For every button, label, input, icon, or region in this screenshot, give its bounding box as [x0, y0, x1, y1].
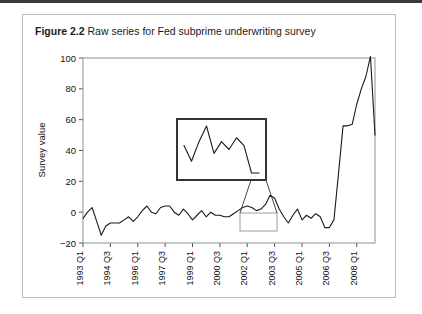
y-tick-label: 100: [60, 53, 76, 64]
x-axis-ticks: 1993 Q11994 Q31996 Q11997 Q31999 Q12000 …: [75, 243, 359, 286]
y-axis-ticks: −20020406080100: [60, 53, 83, 249]
x-tick-label: 1997 Q3: [157, 251, 167, 286]
x-tick-label: 2005 Q1: [294, 251, 304, 286]
x-tick-label: 1993 Q1: [75, 251, 85, 286]
x-tick-label: 2003 Q3: [267, 251, 277, 286]
highlight-region-box: [240, 213, 277, 231]
y-tick-label: 80: [65, 83, 76, 94]
y-tick-label: 40: [65, 145, 76, 156]
y-tick-label: 60: [65, 114, 76, 125]
y-tick-label: 0: [71, 207, 76, 218]
x-tick-label: 1994 Q3: [102, 251, 112, 286]
x-tick-label: 2002 Q1: [239, 251, 249, 286]
x-tick-label: 1999 Q1: [185, 251, 195, 286]
page-top-rule: [0, 0, 422, 3]
survey-line-chart: −20020406080100 1993 Q11994 Q31996 Q1199…: [23, 15, 397, 299]
inset-leader-line-right: [266, 180, 277, 213]
x-tick-label: 2008 Q1: [349, 251, 359, 286]
inset-leader-line-left: [240, 180, 251, 213]
x-tick-label: 1996 Q1: [130, 251, 140, 286]
y-tick-label: 20: [65, 176, 76, 187]
figure-card: Figure 2.2 Raw series for Fed subprime u…: [22, 14, 396, 298]
y-axis-title: Survey value: [36, 123, 47, 178]
x-tick-label: 2006 Q3: [321, 251, 331, 286]
inset-magnifier-frame: [177, 119, 266, 180]
chart-plot-area: −20020406080100 1993 Q11994 Q31996 Q1199…: [23, 15, 397, 299]
x-tick-label: 2000 Q3: [212, 251, 222, 286]
y-tick-label: −20: [60, 238, 76, 249]
